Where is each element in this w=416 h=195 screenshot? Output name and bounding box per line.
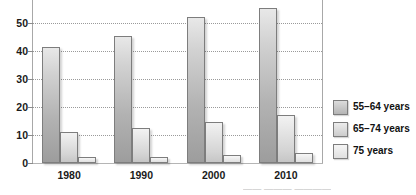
y-tick-mark [28,79,33,80]
legend-item-label: 65–74 years [353,124,410,134]
y-tick-label: 10 [4,130,28,141]
bar[interactable] [150,157,168,163]
y-tick-label: 50 [4,18,28,29]
gridline [33,23,322,24]
x-tick-label: 2000 [184,170,244,181]
gridline [33,79,322,80]
legend-item[interactable]: 75 years [333,140,416,162]
y-tick-label: 40 [4,46,28,57]
caption-fragment: —— ——— ———— [243,184,331,193]
legend-item[interactable]: 65–74 years [333,118,416,140]
y-tick-mark [28,51,33,52]
bar[interactable] [187,17,205,163]
gridline [33,107,322,108]
legend-swatch-icon [333,144,348,159]
bar[interactable] [259,8,277,163]
bar[interactable] [205,122,223,163]
y-tick-mark [28,163,33,164]
legend-item-label: 75 years [353,146,393,156]
legend-swatch-icon [333,100,348,115]
legend-item-label: 55–64 years [353,102,410,112]
legend: 55–64 years 65–74 years 75 years [333,96,416,162]
y-axis-line [32,0,33,164]
y-tick-label: 20 [4,102,28,113]
bar[interactable] [60,132,78,163]
y-tick-label: 30 [4,74,28,85]
bar[interactable] [132,128,150,163]
bar[interactable] [42,47,60,163]
bar-chart: 01020304050 1980199020002010 55–64 years… [0,0,416,195]
x-tick-label: 1990 [111,170,171,181]
bar[interactable] [223,155,241,163]
bar[interactable] [78,157,96,163]
legend-swatch-icon [333,122,348,137]
plot-right-border [322,0,323,164]
x-tick-label: 2010 [256,170,316,181]
y-tick-mark [28,135,33,136]
gridline [33,51,322,52]
bar[interactable] [277,115,295,163]
bar[interactable] [295,153,313,163]
legend-item[interactable]: 55–64 years [333,96,416,118]
x-axis-line [32,163,323,164]
bar[interactable] [114,36,132,163]
x-tick-label: 1980 [39,170,99,181]
y-tick-mark [28,107,33,108]
y-tick-label: 0 [4,158,28,169]
y-tick-mark [28,23,33,24]
